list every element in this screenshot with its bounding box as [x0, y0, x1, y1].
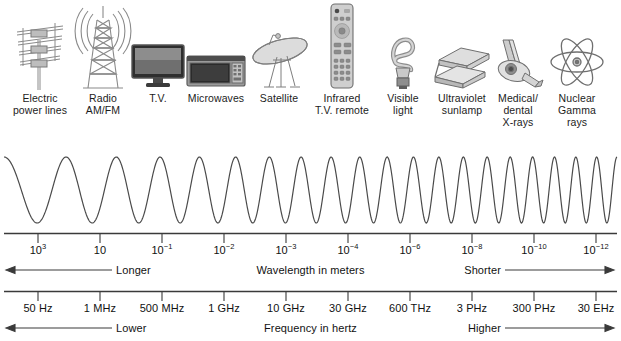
satellite-dish-icon	[243, 0, 315, 92]
wavelength-direction-row: Longer Wavelength in meters Shorter	[0, 262, 621, 282]
spectrum-source-gamma-rays: Nuclear Gamma rays	[541, 0, 613, 129]
spectrum-wave-area	[0, 148, 621, 232]
atom-icon	[541, 0, 613, 92]
frequency-tick-label: 300 PHz	[513, 302, 556, 314]
wavelength-shorter-label: Shorter	[464, 264, 501, 276]
frequency-lower-label: Lower	[116, 322, 146, 334]
frequency-tick-label: 3 PHz	[457, 302, 487, 314]
wavelength-tick-label: 10−10	[521, 244, 546, 256]
electromagnetic-spectrum-diagram: Electric power lines	[0, 0, 621, 341]
spectrum-source-microwaves: Microwaves	[180, 0, 252, 104]
wavelength-tick-label: 10−4	[337, 244, 358, 256]
frequency-tick-label: 30 GHz	[329, 302, 367, 314]
frequency-tick-label: 500 MHz	[140, 302, 185, 314]
spectrum-source-label: Electric power lines	[4, 92, 76, 116]
spectrum-source-label: Microwaves	[180, 92, 252, 104]
frequency-higher-label: Higher	[468, 322, 501, 334]
wavelength-tick-label: 10−2	[213, 244, 234, 256]
transmission-tower-icon	[4, 0, 76, 92]
spectrum-source-electric-power-lines: Electric power lines	[4, 0, 76, 116]
frequency-tick-label: 10 GHz	[267, 302, 305, 314]
wavelength-longer-label: Longer	[116, 264, 151, 276]
frequency-tick-label: 600 THz	[389, 302, 431, 314]
wavelength-axis: 1031010−110−210−310−410−610−810−1010−12 …	[0, 232, 621, 284]
frequency-tick-label: 50 Hz	[23, 302, 52, 314]
frequency-tick-label: 1 GHz	[208, 302, 240, 314]
wavelength-tick-label: 10−12	[583, 244, 608, 256]
wavelength-tick-label: 10−1	[151, 244, 172, 256]
wavelength-tick-label: 10	[94, 244, 106, 256]
spectrum-source-label: Nuclear Gamma rays	[541, 92, 613, 129]
wavelength-axis-caption: Wavelength in meters	[257, 264, 365, 276]
wavelength-tick-label: 10−3	[275, 244, 296, 256]
spectrum-source-satellite: Satellite	[243, 0, 315, 104]
spectrum-source-label: Satellite	[243, 92, 315, 104]
wavelength-tick-label: 103	[30, 244, 47, 256]
microwave-oven-icon	[180, 0, 252, 92]
wavelength-tick-label: 10−6	[399, 244, 420, 256]
frequency-axis-caption: Frequency in hertz	[264, 322, 357, 334]
frequency-axis: 50 Hz1 MHz500 MHz1 GHz10 GHz30 GHz600 TH…	[0, 290, 621, 341]
frequency-tick-label: 30 EHz	[578, 302, 615, 314]
spectrum-wave-icon	[0, 148, 621, 232]
wavelength-tick-label: 10−8	[461, 244, 482, 256]
frequency-tick-label: 1 MHz	[84, 302, 116, 314]
frequency-direction-row: Lower Frequency in hertz Higher	[0, 320, 621, 340]
spectrum-source-row: Electric power lines	[0, 0, 621, 148]
